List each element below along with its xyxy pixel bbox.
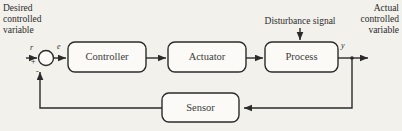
- block-label-controller: Controller: [68, 52, 146, 63]
- signal-label-reference: r: [30, 44, 33, 52]
- summing-junction-plus-sign: +: [31, 58, 36, 66]
- summing-junction-minus-sign: -: [36, 68, 39, 76]
- summing-junction[interactable]: [39, 51, 54, 66]
- block-label-sensor: Sensor: [162, 103, 239, 114]
- signal-label-output: y: [341, 42, 345, 50]
- label-desired-controlled-variable: Desired controlled variable: [3, 3, 42, 36]
- feedback-path-left: [40, 72, 162, 108]
- block-label-actuator: Actuator: [168, 52, 246, 63]
- output-branch-node: [350, 56, 354, 60]
- signal-label-error: e: [57, 43, 61, 51]
- label-disturbance-signal: Disturbance signal: [233, 16, 367, 27]
- block-diagram: Desired controlled variable Actual contr…: [0, 0, 402, 131]
- block-label-process: Process: [265, 52, 338, 63]
